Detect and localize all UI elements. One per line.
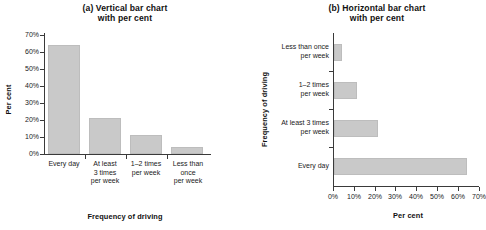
chart-a-y-tick-label: 40% [15, 82, 39, 89]
figure-container: (a) Vertical bar chart with per cent Per… [0, 0, 486, 230]
chart-a-y-tick-label: 50% [15, 65, 39, 72]
bar-less-than-once [334, 44, 342, 61]
chart-a-y-tick [40, 35, 44, 36]
chart-b-x-axis-title: Per cent [368, 211, 448, 220]
chart-a-y-tick [40, 69, 44, 70]
chart-a-x-axis-line [44, 154, 211, 155]
bar-1-2-times [130, 135, 162, 154]
chart-b-y-axis-title: Frequency of driving [260, 50, 269, 170]
chart-b-x-tick [333, 187, 334, 191]
bar-every-day [48, 45, 80, 154]
chart-a-y-tick [40, 86, 44, 87]
bar-less-than-once [171, 147, 203, 154]
chart-b-y-tick [329, 71, 333, 72]
chart-a-category-label: At least 3 times per week [85, 160, 125, 186]
chart-b-x-tick [395, 187, 396, 191]
chart-a-x-tick [126, 155, 127, 159]
chart-b-x-tick [479, 187, 480, 191]
bar-every-day [334, 158, 467, 175]
chart-panel-a: (a) Vertical bar chart with per cent Per… [0, 0, 243, 230]
chart-b-title: (b) Horizontal bar chart with per cent [287, 3, 467, 24]
chart-b-category-label: Less than once per week [265, 43, 329, 60]
chart-a-y-axis-title: Per cent [4, 75, 13, 125]
chart-b-category-label: Every day [265, 162, 329, 171]
chart-b-x-tick [416, 187, 417, 191]
chart-a-y-tick [40, 120, 44, 121]
chart-b-x-tick-label: 0% [324, 193, 342, 200]
chart-a-x-axis-title: Frequency of driving [55, 212, 195, 221]
chart-a-y-tick-label: 20% [15, 116, 39, 123]
chart-a-y-tick-label: 0% [20, 150, 39, 157]
chart-a-y-tick-label: 10% [15, 133, 39, 140]
chart-a-y-tick [40, 154, 44, 155]
chart-a-y-tick [40, 103, 44, 104]
chart-b-category-label: At least 3 times per week [261, 119, 329, 136]
chart-a-y-tick-label: 70% [15, 31, 39, 38]
chart-a-category-label: Every day [44, 160, 84, 169]
chart-a-y-tick-label: 60% [15, 48, 39, 55]
bar-at-least-3-times [89, 118, 121, 154]
chart-panel-b: (b) Horizontal bar chart with per cent F… [243, 0, 486, 230]
chart-b-category-label: 1–2 times per week [265, 81, 329, 98]
bar-1-2-times [334, 82, 357, 99]
chart-b-x-tick [437, 187, 438, 191]
chart-a-y-tick [40, 52, 44, 53]
bar-at-least-3-times [334, 120, 378, 137]
chart-a-x-tick [85, 155, 86, 159]
chart-b-x-tick [375, 187, 376, 191]
chart-a-category-label: Less than once per week [167, 160, 209, 186]
chart-a-x-tick [167, 155, 168, 159]
chart-a-y-tick-label: 30% [15, 99, 39, 106]
chart-a-category-label: 1–2 times per week [126, 160, 166, 177]
chart-b-x-tick [458, 187, 459, 191]
chart-b-y-tick [329, 147, 333, 148]
chart-a-title: (a) Vertical bar chart with per cent [40, 3, 210, 24]
chart-a-y-axis-line [44, 33, 45, 155]
chart-b-x-tick-label: 70% [467, 193, 486, 200]
chart-b-y-tick [329, 109, 333, 110]
chart-a-y-tick [40, 137, 44, 138]
chart-b-x-tick [354, 187, 355, 191]
